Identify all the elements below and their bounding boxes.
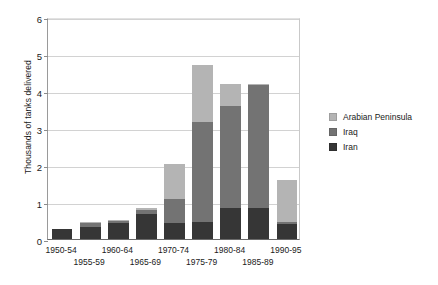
y-axis-tick-label: 5 — [37, 51, 42, 62]
bar-series-layer — [48, 19, 299, 239]
legend-label: Iraq — [343, 127, 358, 137]
x-axis-label: 1955-59 — [74, 257, 105, 267]
x-axis-label: 1990-95 — [270, 245, 301, 255]
y-axis-tick-label: 6 — [37, 14, 42, 25]
legend-swatch-icon — [329, 128, 337, 136]
chart-legend: Arabian PeninsulaIraqIran — [329, 110, 412, 155]
legend-item: Arabian Peninsula — [329, 110, 412, 123]
y-axis-tick-label: 0 — [37, 236, 42, 247]
bar-segment-iraq — [220, 106, 241, 208]
bar-segment-iraq — [248, 85, 269, 207]
x-axis-label: 1965-69 — [130, 257, 161, 267]
bar-segment-iraq — [164, 199, 185, 223]
bar-segment-iran — [248, 208, 269, 239]
bar-1950-54 — [52, 229, 73, 239]
y-axis-tick-label: 3 — [37, 125, 42, 136]
tank-deliveries-bar-chart: Thousands of tanks delivered 0123456 195… — [0, 0, 438, 285]
legend-item: Iran — [329, 140, 412, 153]
bar-1955-59 — [80, 222, 101, 239]
bar-1960-64 — [108, 220, 129, 239]
bar-segment-iran — [136, 214, 157, 239]
bar-segment-iraq — [192, 122, 213, 222]
x-axis-labels: 1950-541955-591960-641965-691970-741975-… — [47, 240, 300, 276]
legend-swatch-icon — [329, 143, 337, 151]
bar-segment-iran — [108, 223, 129, 239]
legend-swatch-icon — [329, 113, 337, 121]
legend-label: Iran — [343, 142, 358, 152]
bar-1985-89 — [248, 84, 269, 239]
bar-segment-iran — [220, 208, 241, 239]
bar-1970-74 — [164, 164, 185, 239]
bar-segment-arabian-peninsula — [277, 180, 298, 223]
x-axis-label: 1985-89 — [242, 257, 273, 267]
y-axis-tick-label: 1 — [37, 199, 42, 210]
x-axis-label: 1975-79 — [186, 257, 217, 267]
bar-segment-iran — [277, 224, 298, 239]
bar-segment-arabian-peninsula — [220, 84, 241, 106]
plot-area: 0123456 — [47, 18, 300, 240]
bar-segment-iran — [192, 222, 213, 239]
bar-1975-79 — [192, 65, 213, 239]
bar-segment-arabian-peninsula — [192, 65, 213, 122]
x-axis-label: 1950-54 — [45, 245, 76, 255]
y-axis-title: Thousands of tanks delivered — [23, 27, 33, 207]
x-axis-label: 1980-84 — [214, 245, 245, 255]
bar-segment-iran — [164, 223, 185, 239]
x-axis-label: 1960-64 — [102, 245, 133, 255]
y-axis-tick-label: 4 — [37, 88, 42, 99]
x-axis-label: 1970-74 — [158, 245, 189, 255]
y-axis-tick-label: 2 — [37, 162, 42, 173]
bar-segment-arabian-peninsula — [164, 164, 185, 199]
legend-item: Iraq — [329, 125, 412, 138]
bar-segment-iran — [80, 227, 101, 239]
bar-segment-iran — [52, 229, 73, 239]
bar-1990-95 — [277, 180, 298, 239]
bar-1980-84 — [220, 84, 241, 239]
legend-label: Arabian Peninsula — [343, 112, 412, 122]
bar-1965-69 — [136, 208, 157, 239]
